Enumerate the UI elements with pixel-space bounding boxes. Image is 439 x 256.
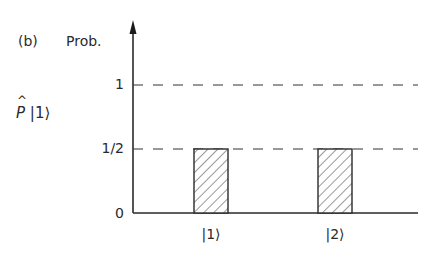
bar-ket-1 (194, 149, 228, 213)
y-axis-arrow-icon (130, 20, 137, 34)
bar-ket-2 (318, 149, 352, 213)
chart-plot-area (0, 0, 439, 256)
